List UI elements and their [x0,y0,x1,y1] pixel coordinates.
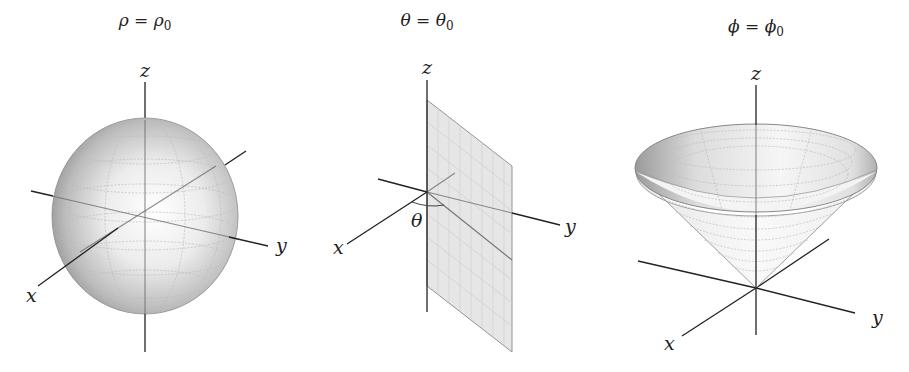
x-axis-label: x [333,236,344,258]
z-axis-label: z [139,59,151,81]
spherical-coordinate-surfaces-figure: ρ = ρ0 z y x θ = θ0 [0,0,909,372]
y-axis-back [31,191,53,196]
panel-sphere: ρ = ρ0 z y x [26,10,287,352]
y-axis [512,213,560,225]
y-axis-back [378,179,427,192]
y-axis [756,288,855,313]
panel-title-cone: ϕ = ϕ0 [728,16,784,39]
panel-title-sphere: ρ = ρ0 [118,10,172,33]
panel-cone: ϕ = ϕ0 [635,16,883,354]
panel-title-half-plane: θ = θ0 [400,10,453,33]
y-axis-label: y [564,215,576,237]
y-axis-label: y [871,306,883,328]
x-axis [682,288,756,336]
x-axis-label: x [664,332,675,354]
x-axis-label: x [26,284,37,306]
theta-label: θ [411,209,423,231]
z-axis-label: z [750,62,762,84]
y-axis-label: y [275,234,287,256]
x-axis-back [225,151,246,165]
z-axis-label: z [421,56,433,78]
panel-half-plane: θ = θ0 [333,10,576,352]
